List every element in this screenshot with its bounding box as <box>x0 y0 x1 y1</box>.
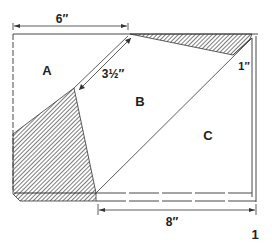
dimension-top <box>13 23 128 30</box>
hatched-flap-top <box>130 34 252 55</box>
region-label-b: B <box>135 94 144 109</box>
diagram-canvas: 6″ 3½″ 1″ 8″ A B C 1 <box>0 0 272 251</box>
figure-number: 1 <box>251 227 258 242</box>
dimension-bottom <box>98 204 256 215</box>
dimension-diagonal <box>79 38 131 90</box>
hatched-flap-left <box>13 88 96 201</box>
fold-lines <box>74 36 252 193</box>
label-top-width: 6″ <box>56 12 69 26</box>
label-bottom-width: 8″ <box>166 215 179 229</box>
region-label-c: C <box>203 128 213 143</box>
region-label-a: A <box>42 63 52 78</box>
label-corner: 1″ <box>238 60 250 72</box>
label-diagonal: 3½″ <box>102 67 125 81</box>
